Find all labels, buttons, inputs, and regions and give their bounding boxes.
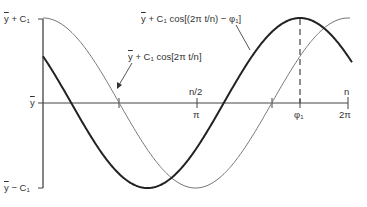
arrow-shifted — [236, 25, 250, 50]
label-y-plus-c1: y + C1 — [4, 14, 30, 24]
label-shifted-curve: y + C1 cos[(2π t/n) − φ1] — [141, 14, 241, 24]
arrow-reference — [119, 63, 132, 85]
label-pi: π — [193, 110, 200, 120]
label-y-minus-c1: y − C1 — [4, 183, 30, 193]
label-2pi: 2π — [339, 110, 351, 120]
label-y-mean: y — [30, 98, 35, 108]
label-n-half: n/2 — [189, 87, 202, 97]
arrow-reference-head — [117, 82, 122, 89]
label-reference-curve: y + C1 cos[2π t/n] — [128, 52, 202, 62]
label-n: n — [344, 87, 349, 97]
cosine-diagram — [0, 0, 367, 207]
label-phi1: φ1 — [294, 110, 304, 120]
